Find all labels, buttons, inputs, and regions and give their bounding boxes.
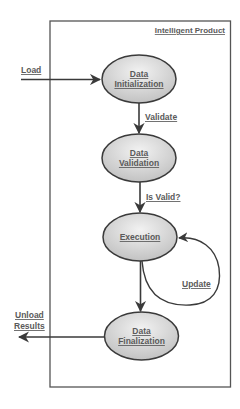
validate-label: Validate — [145, 112, 177, 122]
unload-label-line2: Results — [14, 321, 45, 331]
node-label-line1: Data — [132, 326, 151, 336]
update-label: Update — [182, 279, 211, 289]
node-label-line2: Validation — [119, 158, 159, 168]
node-label-line2: Initialization — [114, 79, 163, 89]
node-label-line1: Execution — [120, 232, 161, 242]
container-title: Intelligent Product — [155, 26, 226, 35]
node-execution[interactable]: Execution — [103, 213, 177, 261]
node-data-initialization[interactable]: Data Initialization — [102, 55, 176, 103]
state-diagram: Intelligent Product Load Validate Is Val… — [0, 0, 240, 409]
node-label-line2: Finalization — [118, 336, 165, 346]
load-label: Load — [21, 65, 41, 75]
node-data-finalization[interactable]: Data Finalization — [105, 312, 179, 360]
is-valid-label: Is Valid? — [146, 192, 181, 202]
node-label-line1: Data — [130, 69, 149, 79]
node-label-line1: Data — [130, 148, 149, 158]
unload-label-line1: Unload — [15, 310, 44, 320]
node-data-validation[interactable]: Data Validation — [102, 134, 176, 182]
